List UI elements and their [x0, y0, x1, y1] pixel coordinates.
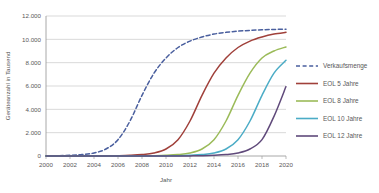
x-tick-label: 2000 — [39, 161, 53, 168]
y-axis-title: Geräteanzahl in Tausend — [4, 51, 11, 120]
x-tick-label: 2018 — [255, 161, 269, 168]
legend-label-3: EOL 10 Jahre — [323, 115, 363, 122]
chart-container: 02.0004.0006.0008.00010.00012.0002000200… — [0, 0, 379, 193]
y-tick-label: 6.000 — [26, 82, 42, 89]
line-chart: 02.0004.0006.0008.00010.00012.0002000200… — [0, 0, 379, 193]
series-line-0 — [46, 29, 286, 156]
x-axis-title: Jahr — [160, 176, 172, 183]
x-tick-label: 2006 — [111, 161, 125, 168]
legend-label-0: Verkaufsmenge — [323, 62, 368, 70]
series-line-2 — [46, 47, 286, 156]
series-line-3 — [46, 60, 286, 156]
x-tick-label: 2008 — [135, 161, 149, 168]
y-tick-label: 8.000 — [26, 59, 42, 66]
x-tick-label: 2002 — [63, 161, 77, 168]
x-tick-label: 2016 — [231, 161, 245, 168]
legend-label-2: EOL 8 Jahre — [323, 97, 359, 104]
y-tick-label: 2.000 — [26, 129, 42, 136]
y-tick-label: 4.000 — [26, 106, 42, 113]
y-tick-label: 0 — [38, 152, 42, 159]
x-tick-label: 2012 — [183, 161, 197, 168]
y-tick-label: 10.000 — [22, 36, 41, 43]
legend-label-4: EOL 12 Jahre — [323, 132, 363, 139]
x-tick-label: 2004 — [87, 161, 101, 168]
series-line-1 — [46, 32, 286, 156]
x-tick-label: 2010 — [159, 161, 173, 168]
legend-label-1: EOL 5 Jahre — [323, 80, 359, 87]
x-tick-label: 2014 — [207, 161, 221, 168]
x-tick-label: 2020 — [279, 161, 293, 168]
y-tick-label: 12.000 — [22, 12, 41, 19]
